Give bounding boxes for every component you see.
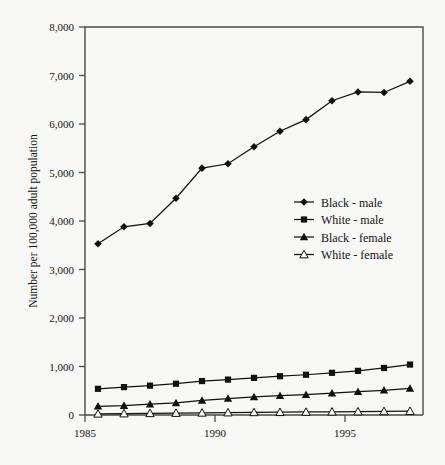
data-point xyxy=(251,375,257,381)
data-point xyxy=(277,373,283,379)
data-point xyxy=(407,361,413,367)
y-tick-label: 7,000 xyxy=(49,70,74,82)
legend-label: Black - female xyxy=(321,231,392,245)
legend-label: White - male xyxy=(321,213,384,227)
legend-label: White - female xyxy=(321,248,393,262)
y-tick-label: 3,000 xyxy=(49,264,74,276)
line-chart: 01,0002,0003,0004,0005,0006,0007,0008,00… xyxy=(0,0,445,465)
data-point xyxy=(303,372,309,378)
x-tick-label: 1990 xyxy=(204,427,227,439)
legend-label: Black - male xyxy=(321,196,382,210)
y-tick-label: 0 xyxy=(69,409,75,421)
data-point xyxy=(225,376,231,382)
data-point xyxy=(121,384,127,390)
y-tick-label: 6,000 xyxy=(49,118,74,130)
y-axis-title: Number per 100,000 adult population xyxy=(27,134,40,308)
data-point xyxy=(355,368,361,374)
chart-figure: 01,0002,0003,0004,0005,0006,0007,0008,00… xyxy=(0,0,445,465)
data-point xyxy=(199,378,205,384)
data-point xyxy=(301,216,307,222)
data-point xyxy=(329,370,335,376)
y-tick-label: 8,000 xyxy=(49,21,74,33)
y-tick-label: 1,000 xyxy=(49,361,74,373)
x-tick-label: 1995 xyxy=(334,427,357,439)
data-point xyxy=(381,365,387,371)
data-point xyxy=(147,383,153,389)
y-axis-tick-labels: 01,0002,0003,0004,0005,0006,0007,0008,00… xyxy=(49,21,74,421)
y-tick-label: 2,000 xyxy=(49,312,74,324)
data-point xyxy=(95,386,101,392)
y-tick-label: 5,000 xyxy=(49,167,74,179)
data-point xyxy=(173,381,179,387)
y-tick-label: 4,000 xyxy=(49,215,74,227)
x-tick-label: 1985 xyxy=(74,427,97,439)
